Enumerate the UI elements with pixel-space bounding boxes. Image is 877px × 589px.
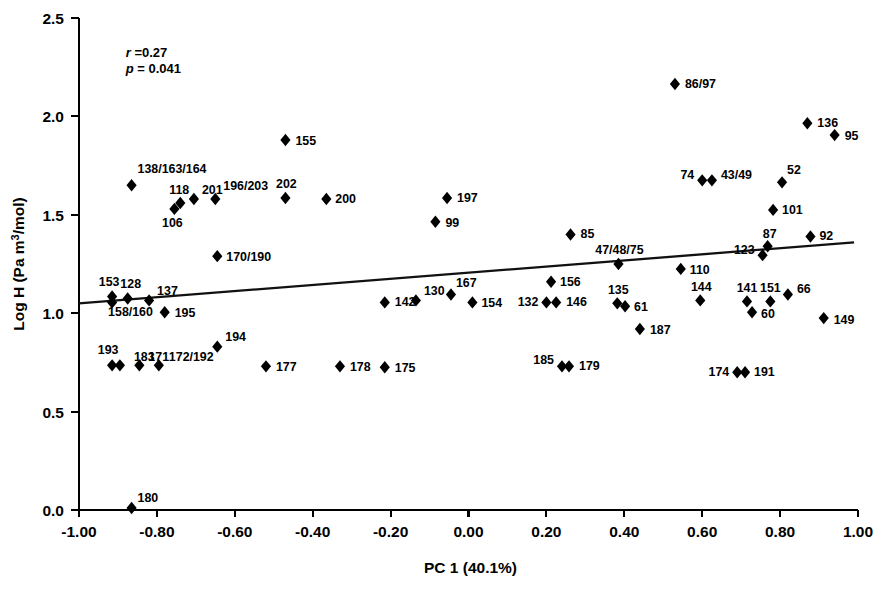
p-value: p = 0.041: [125, 61, 181, 76]
data-point-marker: [802, 117, 812, 129]
data-point-label: 153: [99, 275, 120, 289]
data-point-label: 154: [481, 296, 502, 310]
data-point-label: 200: [335, 192, 356, 206]
x-tick-label-2: -0.60: [217, 523, 252, 540]
data-point-label: 118: [169, 183, 189, 197]
data-point-label: 187: [650, 323, 671, 337]
data-point-label: 43/49: [721, 168, 752, 182]
data-point-marker: [777, 176, 787, 188]
data-point-label: 101: [782, 203, 803, 217]
data-point-label: 149: [834, 313, 855, 327]
data-point-label: 95: [845, 129, 859, 143]
data-point-label: 197: [457, 191, 478, 205]
x-tick-label-9: 0.80: [765, 523, 795, 540]
data-point-marker: [805, 230, 815, 242]
data-point-marker: [541, 296, 551, 308]
y-tick-label-1: 0.5: [42, 404, 64, 421]
data-point-label: 99: [445, 216, 459, 230]
data-point-marker: [212, 250, 222, 262]
x-tick-label-4: -0.20: [373, 523, 408, 540]
data-point-label: 177: [276, 360, 297, 374]
x-tick-label-8: 0.60: [687, 523, 717, 540]
data-point-label: 178: [350, 360, 371, 374]
data-point-label: 175: [395, 361, 416, 375]
stat-annotations: r =0.27p = 0.041: [125, 45, 181, 76]
p-value-symbol: p: [125, 61, 134, 76]
data-point-label: 135: [608, 283, 629, 297]
data-point-label: 195: [175, 306, 196, 320]
data-points: [107, 78, 840, 515]
data-point-label: 196/203: [223, 179, 268, 193]
data-point-label: 171: [148, 350, 169, 364]
data-point-label: 151: [760, 281, 781, 295]
data-point-marker: [551, 296, 561, 308]
data-point-marker: [126, 179, 136, 191]
data-point-marker: [707, 174, 717, 186]
data-point-label: 86/97: [685, 77, 716, 91]
x-tick-label-3: -0.40: [295, 523, 330, 540]
data-point-label: 158/160: [108, 305, 153, 319]
data-point-label: 74: [680, 168, 694, 182]
data-point-marker: [442, 192, 452, 204]
data-point-label: 61: [634, 300, 648, 314]
data-point-label: 87: [763, 227, 777, 241]
data-point-marker: [612, 297, 622, 309]
data-point-marker: [430, 215, 440, 227]
data-point-label: 174: [709, 365, 730, 379]
data-point-label: 155: [295, 134, 316, 148]
data-point-marker: [565, 228, 575, 240]
data-point-marker: [620, 300, 630, 312]
data-point-label: 92: [819, 229, 833, 243]
data-point-label: 179: [579, 359, 600, 373]
x-tick-label-1: -0.80: [139, 523, 174, 540]
data-point-label: 201: [202, 183, 223, 197]
data-point-label: 128: [120, 277, 141, 291]
data-point-marker: [742, 295, 752, 307]
x-tick-label-0: -1.00: [61, 523, 96, 540]
data-point-marker: [212, 340, 222, 352]
data-point-label: 47/48/75: [595, 243, 643, 257]
data-point-marker: [564, 360, 574, 372]
x-axis-title: PC 1 (40.1%): [424, 559, 517, 576]
data-point-label: 142: [395, 295, 416, 309]
y-axis-title-pre: Log H (Pa m: [10, 240, 27, 330]
data-point-label: 52: [787, 163, 801, 177]
data-point-marker: [467, 296, 477, 308]
data-point-marker: [380, 296, 390, 308]
data-point-label: 60: [761, 307, 775, 321]
p-value-value: = 0.041: [134, 61, 181, 76]
data-point-marker: [695, 294, 705, 306]
data-point-label: 191: [754, 365, 775, 379]
data-point-marker: [446, 288, 456, 300]
data-point-label: 85: [581, 227, 595, 241]
data-point-marker: [819, 312, 829, 324]
data-point-marker: [676, 263, 686, 275]
correlation-r-value: =0.27: [131, 45, 168, 60]
data-point-label: 137: [157, 284, 178, 298]
data-point-marker: [126, 502, 136, 514]
data-point-label: 156: [560, 275, 581, 289]
data-point-marker: [546, 276, 556, 288]
data-point-marker: [115, 359, 125, 371]
data-point-label: 130: [424, 284, 445, 298]
plot-canvas: -1.00-0.80-0.60-0.40-0.200.000.200.400.6…: [0, 0, 877, 589]
data-point-label: 193: [98, 343, 119, 357]
data-point-marker: [765, 295, 775, 307]
data-point-marker: [830, 129, 840, 141]
data-point-label: 167: [456, 276, 477, 290]
data-point-marker: [189, 193, 199, 205]
data-point-marker: [763, 240, 773, 252]
y-tick-label-5: 2.5: [42, 10, 64, 27]
data-point-label: 202: [276, 177, 297, 191]
data-point-label: 146: [566, 295, 587, 309]
data-point-marker: [747, 306, 757, 318]
data-point-label: 66: [797, 282, 811, 296]
y-axis-title: Log H (Pa m3/mol): [9, 197, 27, 331]
data-point-marker: [783, 288, 793, 300]
data-point-marker: [280, 192, 290, 204]
data-point-label: 141: [737, 281, 758, 295]
data-point-label: 138/163/164: [138, 162, 207, 176]
data-point-label: 144: [691, 280, 712, 294]
x-tick-label-5: 0.00: [453, 523, 483, 540]
data-point-marker: [261, 360, 271, 372]
